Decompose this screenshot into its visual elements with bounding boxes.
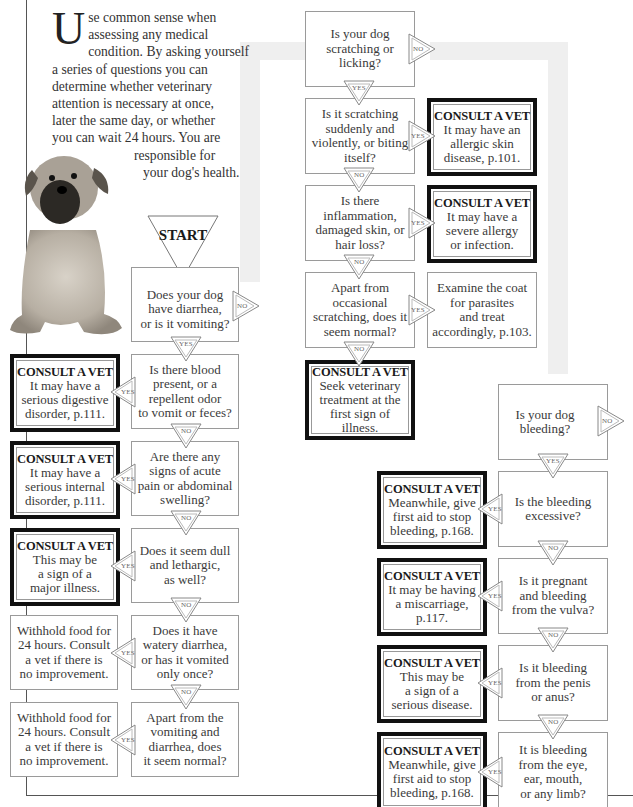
consult-vet-serious-disease: CONSULT A VET This may be a sign of a se… — [377, 645, 487, 723]
question-text: Is there inflammation, damaged skin, or … — [315, 194, 404, 252]
yes-label: YES — [352, 84, 366, 92]
consult-text: Meanwhile, give first aid to stop bleedi… — [388, 496, 475, 538]
question-dull-lethargic: Does it seem dull and lethargic, as well… — [131, 528, 239, 603]
consult-vet-first-aid-2: CONSULT A VET Meanwhile, give first aid … — [377, 732, 487, 807]
consult-vet-major-illness: CONSULT A VET This may be a sign of a ma… — [10, 528, 120, 606]
intro-line: later the same day, or whether — [52, 112, 257, 129]
intro-paragraph: U se common sense when assessing any med… — [52, 9, 257, 147]
yes-arrow-down: YES — [537, 453, 569, 479]
no-arrow-right: NO — [408, 33, 436, 65]
no-label: NO — [602, 417, 613, 425]
no-label: NO — [237, 302, 248, 310]
yes-label: YES — [121, 562, 135, 570]
examine-coat-result: Examine the coat for parasites and treat… — [427, 272, 537, 348]
no-label: NO — [354, 345, 365, 353]
no-label: NO — [548, 544, 559, 552]
yes-label: YES — [121, 649, 135, 657]
yes-arrow-left: YES — [110, 550, 136, 582]
yes-arrow-left: YES — [477, 580, 503, 612]
intro-line: your dog's health. — [143, 164, 283, 181]
result-text: Examine the coat for parasites and treat… — [432, 281, 532, 339]
no-label: NO — [354, 171, 365, 179]
intro-line: responsible for — [134, 147, 274, 164]
consult-text: It may have a serious internal disorder,… — [25, 466, 105, 508]
consult-text: It may be having a miscarriage, p.117. — [388, 583, 476, 625]
question-text: Is your dog bleeding? — [515, 408, 574, 437]
yes-arrow-left: YES — [477, 493, 503, 525]
yes-label: YES — [121, 388, 135, 396]
question-text: Is it scratching suddenly and violently,… — [312, 107, 408, 165]
consult-vet-first-aid-1: CONSULT A VET Meanwhile, give first aid … — [377, 471, 487, 549]
consult-vet-miscarriage: CONSULT A VET It may be having a miscarr… — [377, 558, 487, 636]
intro-line: you can wait 24 hours. You are — [52, 129, 257, 146]
yes-label: YES — [411, 219, 425, 227]
no-arrow-down: NO — [343, 341, 375, 367]
consult-text: Meanwhile, give first aid to stop bleedi… — [388, 758, 475, 800]
question-bleeding: Is your dog bleeding? — [498, 384, 608, 460]
question-text: It is bleeding from the eye, ear, mouth,… — [519, 743, 588, 801]
yes-arrow-left: YES — [477, 667, 503, 699]
question-scratching-licking: Is your dog scratching or licking? — [305, 11, 415, 87]
question-seem-normal-digestive: Apart from the vomiting and diarrhea, do… — [131, 702, 239, 777]
question-text: Does it have watery diarrhea, or has it … — [141, 624, 229, 682]
yes-arrow-down: YES — [170, 336, 202, 362]
question-text: Apart from the vomiting and diarrhea, do… — [143, 711, 226, 769]
yes-arrow-right: YES — [408, 120, 436, 152]
intro-line: determine whether veterinary — [52, 78, 257, 95]
consult-text: This may be a sign of a major illness. — [30, 553, 100, 595]
yes-label: YES — [488, 768, 502, 776]
yes-label: YES — [411, 132, 425, 140]
result-text: Withhold food for 24 hours. Consult a ve… — [17, 711, 111, 769]
consult-text: It may have a serious digestive disorder… — [21, 379, 108, 421]
no-arrow-down: NO — [170, 684, 202, 710]
consult-text: It may have an allergic skin disease, p.… — [444, 123, 521, 165]
drop-cap: U — [52, 11, 85, 47]
withhold-food-result-2: Withhold food for 24 hours. Consult a ve… — [10, 702, 118, 777]
start-label: START — [147, 227, 219, 244]
question-scratching-violently: Is it scratching suddenly and violently,… — [305, 98, 415, 174]
question-text: Does it seem dull and lethargic, as well… — [140, 544, 231, 588]
question-text: Is the bleeding excessive? — [515, 495, 592, 524]
question-eye-ear-mouth-limb: It is bleeding from the eye, ear, mouth,… — [498, 732, 608, 807]
no-arrow-down: NO — [170, 510, 202, 536]
no-arrow-down: NO — [537, 627, 569, 653]
question-pregnant-bleeding: Is it pregnant and bleeding from the vul… — [498, 558, 608, 634]
consult-heading: CONSULT A VET — [312, 365, 408, 379]
no-label: NO — [413, 45, 424, 53]
consult-heading: CONSULT A VET — [384, 744, 480, 758]
no-arrow-right: NO — [597, 405, 625, 437]
consult-heading: CONSULT A VET — [434, 196, 530, 210]
question-text: Is it bleeding from the penis or anus? — [515, 661, 590, 705]
yes-label: YES — [488, 505, 502, 513]
question-text: Are there any signs of acute pain or abd… — [138, 450, 233, 508]
withhold-food-result-1: Withhold food for 24 hours. Consult a ve… — [10, 615, 118, 690]
consult-heading: CONSULT A VET — [384, 569, 480, 583]
question-diarrhea-vomiting: Does your dog have diarrhea, or is it vo… — [131, 267, 239, 342]
question-text: Is there blood present, or a repellent o… — [138, 363, 232, 421]
question-text: Is it pregnant and bleeding from the vul… — [512, 574, 594, 618]
question-seem-normal-skin: Apart from occasional scratching, does i… — [305, 272, 415, 348]
consult-vet-severe-allergy: CONSULT A VET It may have a severe aller… — [427, 185, 537, 263]
question-bleeding-excessive: Is the bleeding excessive? — [498, 471, 608, 547]
question-acute-pain: Are there any signs of acute pain or abd… — [131, 441, 239, 516]
question-watery-diarrhea: Does it have watery diarrhea, or has it … — [131, 615, 239, 690]
no-arrow-down: NO — [343, 254, 375, 280]
yes-label: YES — [121, 736, 135, 744]
yes-arrow-left: YES — [110, 463, 136, 495]
consult-text: It may have a severe allergy or infectio… — [446, 210, 518, 252]
no-label: NO — [354, 258, 365, 266]
no-arrow-down: NO — [170, 597, 202, 623]
no-label: NO — [181, 514, 192, 522]
no-label: NO — [548, 631, 559, 639]
no-label: NO — [548, 718, 559, 726]
no-arrow-down: NO — [537, 540, 569, 566]
no-arrow-down: NO — [537, 714, 569, 740]
intro-line: attention is necessary at once, — [52, 95, 257, 112]
consult-text: Seek veterinary treatment at the first s… — [312, 379, 408, 435]
consult-heading: CONSULT A VET — [17, 365, 113, 379]
yes-arrow-left: YES — [110, 637, 136, 669]
yes-label: YES — [488, 679, 502, 687]
yes-arrow-left: YES — [477, 756, 503, 788]
consult-vet-allergic-skin: CONSULT A VET It may have an allergic sk… — [427, 98, 537, 176]
no-label: NO — [181, 688, 192, 696]
